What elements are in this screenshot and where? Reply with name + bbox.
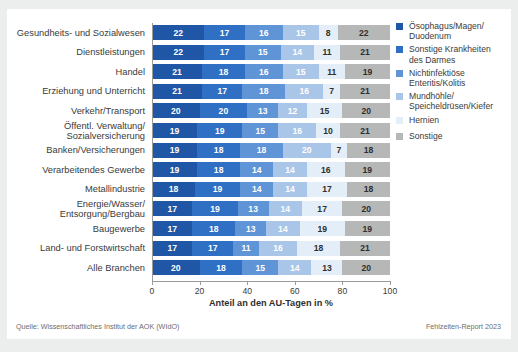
legend-item[interactable]: Sonstige [396, 131, 514, 144]
category-label: Verarbeitendes Gewerbe [7, 164, 145, 174]
bar-segment: 16 [245, 64, 283, 79]
bar-segment: 13 [238, 201, 269, 216]
bar-segment: 18 [197, 162, 240, 177]
legend-label: Sonstige Krankheiten des Darmes [409, 44, 514, 64]
bar-segment: 14 [240, 182, 273, 197]
source-note: Quelle: Wissenschaftliches Institut der … [16, 322, 179, 331]
category-label: Alle Branchen [7, 262, 145, 272]
bar-segment: 14 [269, 201, 302, 216]
bar-segment: 15 [307, 103, 343, 118]
bar-segment: 16 [285, 84, 323, 99]
stacked-bar: 202013121520 [152, 103, 390, 118]
category-label: Gesundheits- und Sozialwesen [7, 27, 145, 37]
bar-segment: 16 [307, 162, 345, 177]
x-tick [342, 281, 343, 285]
legend-swatch-icon [396, 70, 403, 77]
bar-segment: 21 [152, 64, 202, 79]
bar-segment: 18 [297, 241, 340, 256]
chart-row: Verarbeitendes Gewerbe191814141619 [7, 161, 511, 178]
bar-segment: 18 [242, 84, 285, 99]
x-tick-label: 0 [150, 286, 155, 296]
x-tick [247, 281, 248, 285]
bar-segment: 22 [338, 25, 390, 40]
bar-segment: 20 [342, 201, 390, 216]
bar-segment: 7 [331, 143, 348, 158]
category-label: Öffentl. Verwaltung/ Sozialversicherung [7, 120, 145, 141]
stacked-bar: 201815141320 [152, 260, 390, 275]
bar-segment: 17 [302, 201, 342, 216]
bar-segment: 18 [347, 143, 390, 158]
stacked-bar: 221715141121 [152, 45, 390, 60]
bar-segment: 19 [152, 162, 197, 177]
bar-segment: 22 [152, 45, 204, 60]
bar-segment: 18 [240, 143, 283, 158]
category-label: Erziehung und Unterricht [7, 86, 145, 96]
legend-label: Mundhöhle/ Speicheldrüsen/Kiefer [409, 91, 514, 111]
bar-segment: 18 [152, 182, 195, 197]
stacked-bar: 22171615822 [152, 25, 390, 40]
bar-segment: 17 [307, 182, 347, 197]
bar-segment: 20 [342, 103, 390, 118]
chart-row: Land- und Forstwirtschaft171711161821 [7, 240, 511, 257]
category-label: Baugewerbe [7, 223, 145, 233]
bar-segment: 14 [273, 182, 306, 197]
bar-segment: 17 [204, 45, 244, 60]
bar-segment: 14 [273, 162, 306, 177]
bar-segment: 12 [278, 103, 307, 118]
bar-segment: 13 [235, 221, 266, 236]
bar-segment: 17 [204, 25, 244, 40]
stacked-bar: 171813141919 [152, 221, 390, 236]
bar-segment: 19 [345, 64, 390, 79]
bar-segment: 16 [278, 123, 316, 138]
bar-segment: 14 [278, 260, 311, 275]
bar-segment: 19 [195, 182, 240, 197]
chart-card: Gesundheits- und Sozialwesen22171615822D… [7, 9, 511, 339]
bar-segment: 10 [316, 123, 340, 138]
bar-segment: 14 [281, 45, 314, 60]
bar-segment: 21 [340, 123, 390, 138]
legend-item[interactable]: Sonstige Krankheiten des Darmes [396, 44, 514, 64]
bar-segment: 11 [319, 64, 345, 79]
bar-segment: 21 [152, 84, 202, 99]
bar-segment: 16 [245, 25, 283, 40]
bar-segment: 17 [202, 84, 242, 99]
report-note: Fehlzeiten-Report 2023 [426, 322, 501, 331]
bar-segment: 17 [192, 241, 232, 256]
category-label: Handel [7, 66, 145, 76]
chart-row: Alle Branchen201815141320 [7, 259, 511, 276]
bar-segment: 16 [259, 241, 297, 256]
stacked-bar: 21171816721 [152, 84, 390, 99]
stacked-bar: 171913141720 [152, 201, 390, 216]
stacked-bar: 181914141718 [152, 182, 390, 197]
bar-segment: 19 [192, 201, 237, 216]
legend-item[interactable]: Mundhöhle/ Speicheldrüsen/Kiefer [396, 91, 514, 111]
stacked-bar-chart: Gesundheits- und Sozialwesen22171615822D… [7, 9, 511, 339]
legend-item[interactable]: Ösophagus/Magen/ Duodenum [396, 21, 514, 41]
legend-item[interactable]: Nichtinfektiöse Enteritis/Kolitis [396, 68, 514, 88]
chart-row: Metallindustrie181914141718 [7, 181, 511, 198]
bar-segment: 7 [323, 84, 340, 99]
bar-segment: 15 [283, 64, 319, 79]
x-axis-label: Anteil an den AU-Tagen in % [152, 298, 390, 308]
bar-segment: 20 [200, 103, 248, 118]
bar-segment: 20 [152, 103, 200, 118]
bar-segment: 18 [200, 260, 243, 275]
bar-segment: 19 [345, 162, 390, 177]
x-axis-line [152, 281, 390, 282]
x-tick-label: 20 [195, 286, 205, 296]
bar-segment: 21 [340, 84, 390, 99]
bar-segment: 14 [240, 162, 273, 177]
legend-swatch-icon [396, 117, 403, 124]
legend-swatch-icon [396, 133, 403, 140]
chart-row: Baugewerbe171813141919 [7, 220, 511, 237]
x-tick-label: 80 [338, 286, 348, 296]
bar-segment: 18 [202, 64, 245, 79]
bar-segment: 19 [345, 221, 390, 236]
x-tick [295, 281, 296, 285]
bar-segment: 11 [314, 45, 340, 60]
legend-label: Ösophagus/Magen/ Duodenum [409, 21, 514, 41]
category-label: Banken/Versicherungen [7, 145, 145, 155]
bar-segment: 17 [152, 221, 192, 236]
legend-item[interactable]: Hernien [396, 115, 514, 128]
bar-segment: 18 [192, 221, 235, 236]
